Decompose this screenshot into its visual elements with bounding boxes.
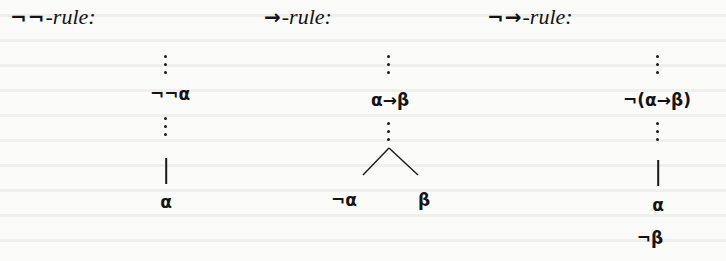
rule-label: -rule: [282, 4, 332, 29]
ellipsis-vertical-icon [386, 122, 390, 141]
rule-symbol: → [264, 5, 282, 29]
rule-symbol: ¬¬ [10, 5, 46, 29]
ellipsis-vertical-icon [386, 55, 390, 74]
rule-label: -rule: [523, 4, 573, 29]
branch-line [657, 160, 659, 186]
ellipsis-vertical-icon [655, 122, 659, 141]
branch-fork [360, 145, 420, 185]
ellipsis-vertical-icon [163, 117, 167, 136]
ellipsis-vertical-icon [163, 55, 167, 74]
conclusion-formula: α [652, 195, 664, 215]
conclusion-formula: α [160, 192, 172, 212]
premise-formula: ¬(α→β) [623, 90, 691, 110]
premise-formula: ¬¬α [150, 84, 190, 104]
show-through-text [0, 0, 726, 261]
conclusion-formula: ¬β [637, 228, 663, 248]
rule-symbol: ¬→ [487, 5, 523, 29]
tableau-rules-figure: ¬¬-rule: ¬¬α α →-rule: α→β ¬α β ¬→-rule:… [0, 0, 726, 261]
rule-title-double-negation: ¬¬-rule: [10, 4, 96, 30]
conclusion-formula-right: β [418, 190, 430, 210]
ellipsis-vertical-icon [655, 55, 659, 74]
conclusion-formula-left: ¬α [331, 190, 357, 210]
rule-title-implication: →-rule: [264, 4, 332, 30]
premise-formula: α→β [371, 90, 409, 110]
rule-label: -rule: [46, 4, 96, 29]
rule-title-negated-implication: ¬→-rule: [487, 4, 573, 30]
branch-line [165, 158, 167, 184]
